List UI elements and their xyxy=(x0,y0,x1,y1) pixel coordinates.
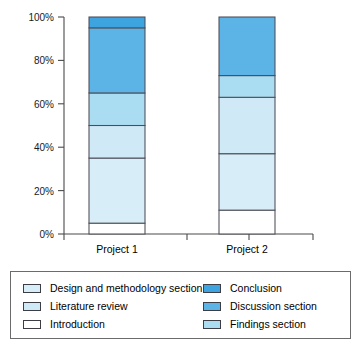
bar-column-project-1 xyxy=(89,17,145,234)
bar-segment-discussion-project-1 xyxy=(89,28,145,93)
x-category-label-project-2: Project 2 xyxy=(226,243,268,255)
x-category-label-project-1: Project 1 xyxy=(96,243,138,255)
legend-label-conclusion: Conclusion xyxy=(230,283,282,294)
legend-item-introduction: Introduction xyxy=(11,319,197,330)
chart-figure: 100% 80% 60% 40% 20% 0% xyxy=(0,0,363,262)
y-axis-ticks xyxy=(58,17,64,234)
bar-segment-discussion-project-2 xyxy=(219,17,275,76)
legend-label-introduction: Introduction xyxy=(50,319,105,330)
y-tick-label-60: 60% xyxy=(34,99,54,110)
legend-item-design-and-methodology-section: Design and methodology section xyxy=(11,283,197,294)
legend-swatch-literature-review xyxy=(23,302,41,311)
bar-segment-findings-project-2 xyxy=(219,97,275,153)
legend-item-conclusion: Conclusion xyxy=(197,283,352,294)
stacked-bar-chart-plot: 100% 80% 60% 40% 20% 0% xyxy=(0,0,363,262)
legend-label-design-and-methodology-section: Design and methodology section xyxy=(50,283,202,294)
chart-legend: Design and methodology section Conclusio… xyxy=(10,271,351,339)
legend-swatch-conclusion xyxy=(203,284,221,293)
y-tick-label-20: 20% xyxy=(34,186,54,197)
bar-segment-design-methodology-project-2 xyxy=(219,154,275,210)
y-tick-label-0: 0% xyxy=(40,229,55,240)
bar-segment-design-methodology-project-1 xyxy=(89,158,145,223)
legend-label-literature-review: Literature review xyxy=(50,301,128,312)
bar-segment-conclusion-project-1 xyxy=(89,17,145,28)
y-tick-label-80: 80% xyxy=(34,55,54,66)
x-axis-ticks xyxy=(64,234,313,240)
bar-column-project-2 xyxy=(219,17,275,234)
legend-label-discussion-section: Discussion section xyxy=(230,301,317,312)
bar-segment-introduction-project-2 xyxy=(219,210,275,234)
y-tick-label-40: 40% xyxy=(34,142,54,153)
legend-item-literature-review: Literature review xyxy=(11,301,197,312)
legend-item-findings-section: Findings section xyxy=(197,319,352,330)
bar-segment-findings-project-1 xyxy=(89,126,145,159)
bar-segment-introduction-project-1 xyxy=(89,223,145,234)
legend-swatch-design-and-methodology-section xyxy=(23,284,41,293)
legend-label-findings-section: Findings section xyxy=(230,319,306,330)
legend-swatch-introduction xyxy=(23,320,41,329)
y-tick-label-100: 100% xyxy=(28,12,54,23)
bar-segment-literature-review-project-2 xyxy=(219,76,275,98)
bar-segment-literature-review-project-1 xyxy=(89,93,145,126)
legend-item-discussion-section: Discussion section xyxy=(197,301,352,312)
legend-swatch-discussion-section xyxy=(203,302,221,311)
legend-swatch-findings-section xyxy=(203,320,221,329)
